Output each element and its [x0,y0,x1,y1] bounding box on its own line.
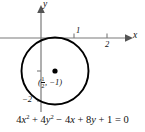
eq-operator-3: + [77,114,83,125]
eq-equals-sign: = [115,114,121,125]
circle-graph-figure: x y 1 2 −2 (12, −1) 4x2 + 4y2 − 4x + 8y … [0,0,145,132]
eq-term5-constant: 1 [107,114,112,125]
eq-term1-exponent: 2 [26,113,29,120]
circle-center-label: (12, −1) [38,76,62,91]
eq-operator-4: + [99,114,105,125]
circle-equation: 4x2 + 4y2 − 4x + 8y + 1 = 0 [0,114,145,126]
plot-area: x y 1 2 −2 (12, −1) [0,0,145,112]
y-tick-label-minus-2: −2 [22,95,32,104]
x-axis-label: x [133,31,137,41]
eq-term4-variable: y [91,114,96,125]
eq-operator-1: + [32,114,38,125]
x-axis-arrowhead [125,34,133,42]
fraction-denominator: 2 [41,83,45,90]
eq-operator-2: − [56,114,62,125]
y-axis-label: y [43,0,47,10]
center-label-comma: , [45,77,47,87]
center-point-dot [52,68,57,73]
x-tick-label-2: 2 [105,40,109,49]
eq-right-side: 0 [124,114,129,125]
center-label-fraction: 12 [41,76,45,91]
x-tick-label-1: 1 [76,26,80,35]
center-label-y-value: −1 [49,77,59,87]
center-label-close-paren: ) [59,77,62,87]
eq-term3-variable: x [70,114,75,125]
eq-term2-exponent: 2 [50,113,53,120]
